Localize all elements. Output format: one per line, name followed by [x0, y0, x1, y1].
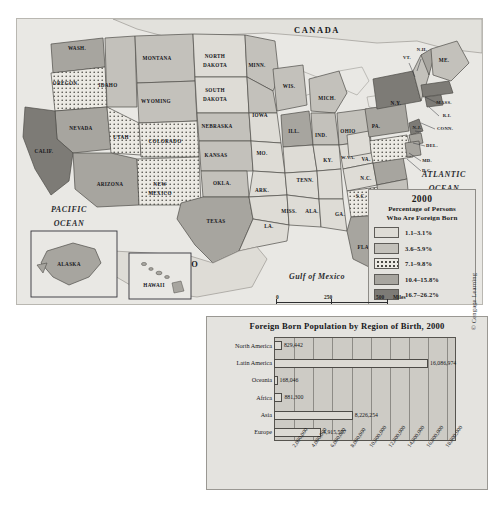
- chart-category-label-3: Africa: [256, 394, 272, 401]
- state-label-calif: CALIF.: [35, 148, 54, 154]
- state-label-pa: PA.: [372, 123, 381, 129]
- chart-bar-value-3: 881,300: [284, 394, 303, 400]
- chart-bar-value-2: 168,046: [280, 377, 299, 383]
- legend-item-2: 7.1–9.8%: [374, 257, 470, 270]
- chart-bar-0: [274, 341, 282, 350]
- legend-item-1: 3.6–5.9%: [374, 242, 470, 255]
- bar-chart-panel: Foreign Born Population by Region of Bir…: [206, 316, 488, 490]
- state-label-ark: ARK.: [255, 187, 269, 193]
- pacific-ocean-label-line2: OCEAN: [54, 219, 85, 228]
- state-label-mexico: MEXICO: [148, 190, 172, 196]
- legend-swatch-0: [374, 227, 399, 238]
- state-label-kansas: KANSAS: [205, 152, 228, 158]
- state-label-dakota: DAKOTA: [203, 62, 227, 68]
- chart-category-label-2: Oceania: [252, 376, 272, 383]
- hawaii-inset-label: HAWAII: [143, 282, 164, 288]
- state-label-nh: N.H.: [417, 47, 427, 52]
- state-label-idaho: IDAHO: [98, 82, 117, 88]
- state-label-la: LA.: [264, 223, 274, 229]
- chart-bar-value-1: 16,086,974: [430, 360, 456, 366]
- legend-item-3: 10.4–15.8%: [374, 273, 470, 286]
- legend-title-line1: Percentage of Persons: [374, 205, 470, 214]
- map-legend: 2000 Percentage of Persons Who Are Forei…: [368, 189, 476, 305]
- state-label-nebraska: NEBRASKA: [201, 123, 232, 129]
- legend-swatch-3: [374, 274, 399, 285]
- state-label-ala: ALA.: [305, 208, 319, 214]
- state-label-conn: CONN.: [437, 126, 453, 131]
- legend-swatch-1: [374, 243, 399, 254]
- legend-year: 2000: [374, 194, 470, 204]
- scale-miles-unit: Miles: [393, 294, 406, 300]
- gridline-3: [352, 338, 353, 440]
- state-label-vt: VT.: [403, 55, 411, 60]
- chart-category-label-4: Asia: [261, 411, 272, 418]
- state-label-miss: MISS.: [281, 208, 297, 214]
- state-label-utah: UTAH: [113, 134, 129, 140]
- copyright-credit: © Cengage Learning: [470, 190, 477, 330]
- legend-swatch-2: [374, 258, 399, 269]
- gridline-5: [390, 338, 391, 440]
- state-label-tenn: TENN.: [296, 177, 314, 183]
- chart-plot-area: [274, 337, 456, 441]
- scale-miles-tick-0: 0: [276, 294, 279, 300]
- state-label-ill: ILL.: [288, 128, 300, 134]
- state-label-mo: MO.: [256, 150, 268, 156]
- state-label-ga: GA.: [335, 211, 345, 217]
- chart-bar-1: [274, 359, 428, 368]
- state-label-ohio: OHIO: [340, 128, 355, 134]
- state-label-ny: N.Y.: [391, 100, 402, 106]
- legend-label-1: 3.6–5.9%: [405, 245, 432, 252]
- legend-label-4: 16.7–26.2%: [405, 291, 439, 298]
- state-label-nc: N.C.: [360, 175, 372, 181]
- state-label-dakota: DAKOTA: [203, 96, 227, 102]
- state-label-sc: S.C.: [356, 193, 367, 199]
- atlantic-ocean-label-line1: ATLANTIC: [421, 170, 466, 179]
- map-scale-bars: 0 250 500 Miles 0 250 500 Kilometers: [276, 296, 394, 305]
- gridline-2: [332, 338, 333, 440]
- gulf-of-mexico-label: Gulf of Mexico: [289, 272, 345, 281]
- chart-plot-wrapper: North America829,442Latin America16,086,…: [207, 317, 489, 491]
- chart-bar-value-4: 8,226,254: [355, 412, 378, 418]
- state-label-arizona: ARIZONA: [97, 181, 124, 187]
- state-label-mich: MICH.: [318, 95, 336, 101]
- state-label-mass: MASS.: [436, 100, 451, 105]
- state-label-iowa: IOWA: [252, 112, 268, 118]
- chart-bar-4: [274, 411, 353, 420]
- alaska-inset-label: ALASKA: [57, 261, 80, 267]
- figure-root: WASH.OREGONIDAHOMONTANAWYOMINGNEVADACALI…: [0, 0, 503, 507]
- pacific-ocean-label-line1: PACIFIC: [51, 205, 87, 214]
- chart-bar-2: [274, 376, 278, 385]
- state-label-wyoming: WYOMING: [141, 98, 171, 104]
- state-label-nj: N.J.: [412, 125, 421, 130]
- legend-title-line2: Who Are Foreign Born: [374, 214, 470, 223]
- state-label-ind: IND.: [315, 132, 327, 138]
- us-choropleth-map: WASH.OREGONIDAHOMONTANAWYOMINGNEVADACALI…: [16, 18, 483, 305]
- state-label-wis: WIS.: [283, 83, 296, 89]
- state-label-md: MD.: [422, 158, 432, 163]
- state-label-nevada: NEVADA: [69, 125, 92, 131]
- state-label-new: NEW: [153, 181, 167, 187]
- scale-miles-tick-1: 250: [324, 294, 332, 300]
- state-label-ky: KY.: [323, 157, 333, 163]
- scale-miles-tick-2: 500: [376, 294, 384, 300]
- gridline-6: [409, 338, 410, 440]
- legend-item-0: 1.1–3.1%: [374, 226, 470, 239]
- hawaii-inset-frame: [129, 253, 191, 299]
- state-label-north: NORTH: [205, 53, 225, 59]
- state-label-wash: WASH.: [68, 45, 86, 51]
- state-label-okla: OKLA.: [213, 180, 231, 186]
- chart-bar-3: [274, 393, 282, 402]
- legend-label-3: 10.4–15.8%: [405, 276, 439, 283]
- state-label-ri: R.I.: [443, 113, 452, 118]
- legend-label-0: 1.1–3.1%: [405, 229, 432, 236]
- state-label-wva: W.VA.: [341, 155, 355, 160]
- gridline-7: [428, 338, 429, 440]
- state-label-va: VA.: [361, 156, 370, 162]
- state-label-south: SOUTH: [205, 87, 225, 93]
- state-label-colorado: COLORADO: [149, 138, 182, 144]
- legend-items: 1.1–3.1%3.6–5.9%7.1–9.8%10.4–15.8%16.7–2…: [374, 226, 470, 301]
- state-label-texas: TEXAS: [207, 218, 226, 224]
- state-label-oregon: OREGON: [53, 80, 78, 86]
- gridline-1: [313, 338, 314, 440]
- state-label-minn: MINN.: [248, 62, 266, 68]
